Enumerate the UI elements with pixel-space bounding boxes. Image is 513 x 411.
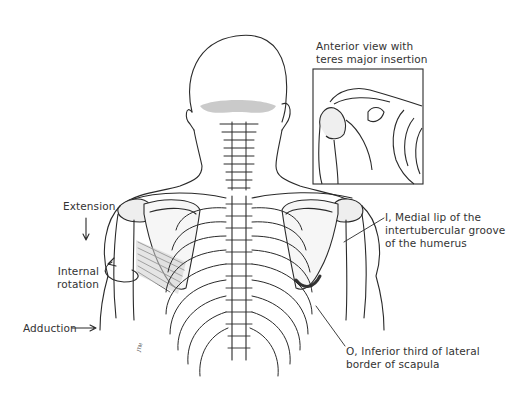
insertion-label: I, Medial lip of the intertubercular gro…: [385, 211, 505, 250]
insertion-line3: of the humerus: [385, 237, 505, 250]
origin-leader-line: [316, 306, 345, 346]
inset-anterior-view: [313, 69, 423, 184]
insertion-line2: intertubercular groove: [385, 224, 505, 237]
insertion-line1: I, Medial lip of the: [385, 211, 505, 224]
cervical-spine: [220, 122, 258, 190]
inset-title: Anterior view with teres major insertion: [316, 40, 428, 66]
thoracic-spine: [226, 196, 252, 360]
svg-text:JTM: JTM: [135, 342, 144, 353]
inset-title-line1: Anterior view with: [316, 40, 428, 53]
inset-title-line2: teres major insertion: [316, 53, 428, 66]
internal-rotation-line2: rotation: [57, 278, 99, 291]
left-humerus: [114, 214, 134, 320]
adduction-label: Adduction: [23, 322, 77, 335]
extension-label: Extension: [63, 200, 115, 213]
right-humerus: [346, 214, 366, 320]
origin-line1: O, Inferior third of lateral: [346, 345, 480, 358]
internal-rotation-line1: Internal: [57, 265, 99, 278]
internal-rotation-label: Internal rotation: [57, 265, 99, 291]
origin-label: O, Inferior third of lateral border of s…: [346, 345, 480, 371]
origin-line2: border of scapula: [346, 358, 480, 371]
extension-arrow: [83, 218, 89, 240]
